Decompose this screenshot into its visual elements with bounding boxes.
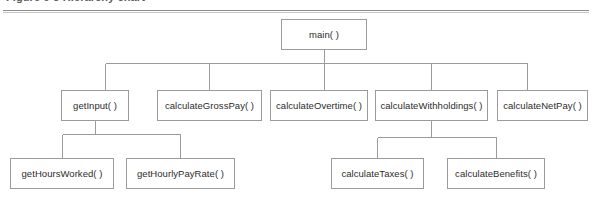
node-calculate-gross-pay-label: calculateGrossPay( )	[163, 101, 256, 111]
node-calculate-overtime[interactable]: calculateOvertime( )	[270, 90, 368, 121]
hierarchy-chart-figure: Figure 6-3 Hierarchy chart	[0, 0, 592, 202]
node-calculate-gross-pay[interactable]: calculateGrossPay( )	[157, 90, 262, 121]
node-calculate-benefits[interactable]: calculateBenefits( )	[447, 158, 545, 189]
node-calculate-benefits-label: calculateBenefits( )	[453, 169, 539, 179]
node-calculate-withholdings[interactable]: calculateWithholdings( )	[375, 90, 488, 121]
node-calculate-taxes[interactable]: calculateTaxes( )	[331, 158, 424, 189]
node-get-hours-worked-label: getHoursWorked( )	[20, 169, 105, 179]
node-calculate-withholdings-label: calculateWithholdings( )	[378, 101, 484, 111]
node-calculate-net-pay-label: calculateNetPay( )	[501, 101, 584, 111]
node-get-input-label: getInput( )	[71, 101, 119, 111]
node-calculate-net-pay[interactable]: calculateNetPay( )	[497, 90, 588, 121]
node-main-label: main( )	[307, 30, 341, 40]
node-get-hours-worked[interactable]: getHoursWorked( )	[10, 158, 114, 189]
node-calculate-taxes-label: calculateTaxes( )	[339, 169, 415, 179]
node-calculate-overtime-label: calculateOvertime( )	[274, 101, 364, 111]
node-get-input[interactable]: getInput( )	[61, 90, 129, 121]
hierarchy-chart-canvas: main( ) getInput( ) calculateGrossPay( )…	[0, 0, 592, 202]
node-get-hourly-pay-rate-label: getHourlyPayRate( )	[135, 169, 226, 179]
node-main[interactable]: main( )	[281, 19, 367, 50]
node-get-hourly-pay-rate[interactable]: getHourlyPayRate( )	[126, 158, 235, 189]
